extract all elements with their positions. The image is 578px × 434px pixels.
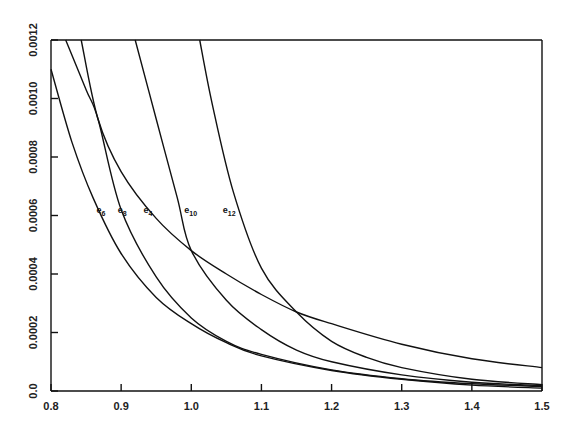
x-ticks: 0.80.91.01.11.21.31.41.5 bbox=[43, 384, 549, 412]
curve-e12 bbox=[200, 40, 542, 385]
label-e12: e12 bbox=[223, 205, 236, 217]
y-tick-label: 0.0008 bbox=[27, 140, 39, 174]
y-tick-label: 0.0 bbox=[27, 383, 39, 398]
y-tick-label: 0.0002 bbox=[27, 316, 39, 350]
x-tick-label: 0.8 bbox=[43, 400, 58, 412]
curve-e8 bbox=[66, 40, 542, 387]
x-tick-label: 1.1 bbox=[254, 400, 269, 412]
curve-e6 bbox=[51, 69, 542, 388]
label-e4: e4 bbox=[144, 205, 153, 217]
curve-e4 bbox=[81, 40, 542, 368]
y-tick-label: 0.0010 bbox=[27, 82, 39, 116]
x-tick-label: 1.2 bbox=[324, 400, 339, 412]
x-tick-label: 1.5 bbox=[534, 400, 549, 412]
y-tick-label: 0.0012 bbox=[27, 23, 39, 57]
line-chart: 0.80.91.01.11.21.31.41.5 0.00.00020.0004… bbox=[0, 0, 578, 434]
x-tick-label: 1.3 bbox=[394, 400, 409, 412]
y-tick-label: 0.0006 bbox=[27, 199, 39, 233]
x-tick-label: 0.9 bbox=[113, 400, 128, 412]
label-e8: e8 bbox=[118, 205, 127, 217]
x-tick-label: 1.0 bbox=[184, 400, 199, 412]
label-e6: e6 bbox=[97, 205, 106, 217]
label-e10: e10 bbox=[184, 205, 197, 217]
x-tick-label: 1.4 bbox=[464, 400, 480, 412]
curve-labels: e6e8e4e10e12 bbox=[97, 205, 236, 217]
y-tick-label: 0.0004 bbox=[27, 256, 39, 291]
